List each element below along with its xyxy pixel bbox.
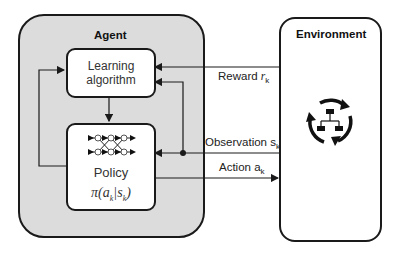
reward-label: Reward rk	[218, 70, 269, 85]
neural-network-icon	[86, 131, 138, 159]
policy-formula: π(ak|sk)	[68, 185, 154, 203]
observation-label: Observation sk	[205, 136, 280, 151]
cycle-hierarchy-icon	[304, 96, 356, 148]
policy-label: Policy	[68, 165, 154, 180]
learning-algorithm-label-line2: algorithm	[68, 73, 154, 87]
learning-algorithm-box: Learning algorithm	[66, 48, 156, 98]
learning-algorithm-label-line1: Learning	[68, 59, 154, 73]
action-label: Action ak	[219, 161, 265, 176]
policy-box: Policy π(ak|sk)	[66, 123, 156, 211]
